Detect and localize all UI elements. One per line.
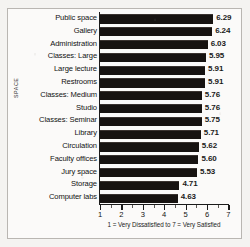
bar	[100, 78, 205, 87]
bar-value-label: 5.60	[201, 153, 216, 166]
bar	[100, 53, 206, 62]
bar	[100, 117, 202, 126]
x-tick-label: 3	[141, 210, 145, 219]
bar-value-label: 5.62	[202, 140, 217, 153]
bar-rows: Public space6.29Gallery6.24Administratio…	[0, 12, 250, 204]
category-label: Large lecture	[54, 63, 97, 76]
x-tick-minor	[175, 205, 176, 208]
bar-row: Faculty offices5.60	[0, 153, 250, 166]
bar	[100, 66, 205, 75]
x-tick-label: 7	[226, 210, 230, 219]
bar-row: Circulation5.62	[0, 140, 250, 153]
plot-area: SPACE Public space6.29Gallery6.24Adminis…	[0, 0, 250, 247]
bar	[100, 181, 179, 190]
x-tick-label: 1	[98, 210, 102, 219]
x-tick-major	[121, 205, 122, 210]
bar-value-label: 5.75	[205, 114, 220, 127]
bar	[100, 104, 202, 113]
category-label: Faculty offices	[50, 153, 97, 166]
x-tick-label: 4	[162, 210, 166, 219]
bar-row: Studio5.76	[0, 102, 250, 115]
category-label: Classes: Large	[48, 50, 97, 63]
x-tick-major	[186, 205, 187, 210]
x-tick-minor	[154, 205, 155, 208]
bar	[100, 194, 178, 203]
bar	[100, 130, 201, 139]
bar-row: Large lecture5.91	[0, 63, 250, 76]
bar	[100, 40, 208, 49]
bar	[100, 168, 197, 177]
bar-row: Administration6.03	[0, 38, 250, 51]
bar-value-label: 6.29	[216, 12, 231, 25]
x-tick-minor	[111, 205, 112, 208]
category-label: Classes: Medium	[40, 89, 97, 102]
category-label: Library	[74, 127, 97, 140]
bar	[100, 142, 199, 151]
bar-row: Storage4.71	[0, 178, 250, 191]
bar-value-label: 5.53	[200, 166, 215, 179]
category-label: Studio	[76, 102, 97, 115]
x-tick-major	[207, 205, 208, 210]
x-tick-major	[228, 205, 229, 210]
x-tick-label: 6	[205, 210, 209, 219]
x-axis-caption: 1 = Very Dissatisfied to 7 = Very Satisf…	[99, 221, 229, 228]
bar-value-label: 6.24	[215, 25, 230, 38]
bar-value-label: 5.76	[205, 89, 220, 102]
bar-value-label: 4.71	[182, 178, 197, 191]
bar-row: Restrooms5.91	[0, 76, 250, 89]
category-label: Administration	[50, 38, 97, 51]
bar-row: Gallery6.24	[0, 25, 250, 38]
bar-row: Jury space5.53	[0, 166, 250, 179]
bar-value-label: 5.91	[208, 63, 223, 76]
bar	[100, 27, 212, 36]
bar-value-label: 5.91	[208, 76, 223, 89]
x-tick-major	[164, 205, 165, 210]
x-tick-minor	[132, 205, 133, 208]
category-label: Gallery	[74, 25, 97, 38]
bar-row: Classes: Seminar5.75	[0, 114, 250, 127]
bar-row: Classes: Large5.95	[0, 50, 250, 63]
category-label: Classes: Seminar	[39, 114, 97, 127]
category-label: Restrooms	[61, 76, 97, 89]
category-label: Public space	[55, 12, 97, 25]
x-tick-label: 2	[119, 210, 123, 219]
x-tick-major	[100, 205, 101, 210]
bar	[100, 14, 213, 23]
bar-value-label: 5.71	[204, 127, 219, 140]
bar-value-label: 6.03	[211, 38, 226, 51]
category-label: Computer labs	[49, 191, 97, 204]
x-tick-minor	[196, 205, 197, 208]
bar-value-label: 4.63	[181, 191, 196, 204]
bar	[100, 91, 202, 100]
bar-value-label: 5.95	[209, 50, 224, 63]
bar-row: Classes: Medium5.76	[0, 89, 250, 102]
bar-row: Public space6.29	[0, 12, 250, 25]
bar-row: Library5.71	[0, 127, 250, 140]
x-tick-label: 5	[183, 210, 187, 219]
x-tick-major	[143, 205, 144, 210]
bar-value-label: 5.76	[205, 102, 220, 115]
bar-row: Computer labs4.63	[0, 191, 250, 204]
figure-container: SPACE Public space6.29Gallery6.24Adminis…	[0, 0, 250, 247]
category-label: Jury space	[61, 166, 97, 179]
category-label: Circulation	[62, 140, 97, 153]
bar	[100, 155, 198, 164]
x-tick-minor	[218, 205, 219, 208]
category-label: Storage	[71, 178, 97, 191]
